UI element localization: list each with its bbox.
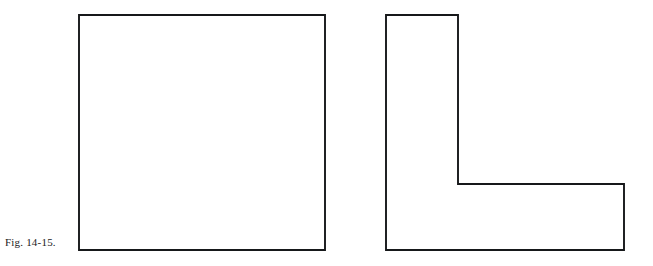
square-shape [79, 15, 325, 250]
figure-drawing-canvas [0, 0, 653, 266]
figure-caption: Fig. 14-15. [5, 236, 56, 249]
